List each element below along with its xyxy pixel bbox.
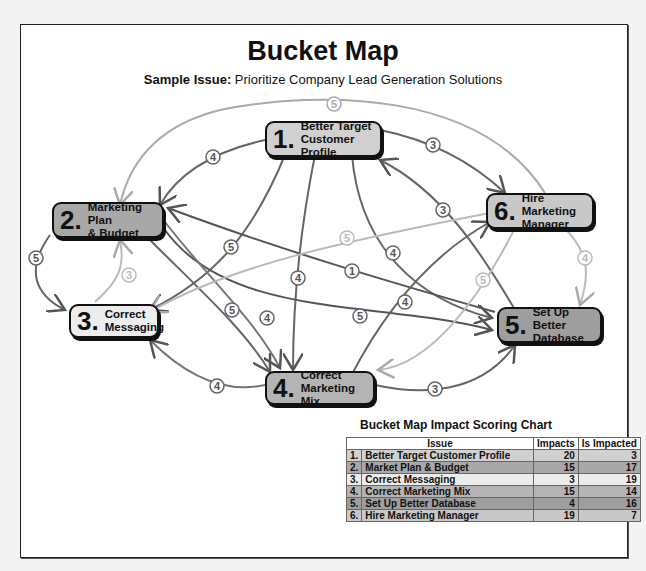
- bucket-node-2: 2. Marketing Plan& Budget: [52, 202, 164, 238]
- svg-text:4: 4: [390, 247, 397, 259]
- edge-5-4: [378, 218, 520, 370]
- table-row: 2.Market Plan & Budget1517: [347, 462, 641, 474]
- svg-text:5: 5: [229, 304, 235, 316]
- scoring-table: Issue Impacts Is Impacted 1.Better Targe…: [346, 437, 641, 522]
- edge-1-3: [150, 155, 285, 310]
- table-row: 6.Hire Marketing Manager197: [347, 510, 641, 522]
- bucket-node-6: 6. Hire MarketingManager: [486, 193, 594, 229]
- svg-text:5: 5: [357, 310, 363, 322]
- svg-text:4: 4: [210, 151, 217, 163]
- edge-1-4: [293, 155, 315, 370]
- svg-text:5: 5: [331, 98, 337, 110]
- svg-text:4: 4: [582, 252, 589, 264]
- bucket-node-4: 4. CorrectMarketing Mix: [265, 371, 375, 405]
- edge-3-2: [95, 240, 122, 302]
- svg-text:1: 1: [349, 265, 355, 277]
- svg-text:5: 5: [33, 252, 39, 264]
- svg-text:5: 5: [228, 241, 234, 253]
- edge-4-3: [150, 340, 265, 387]
- bucket-node-5: 5. Set Up BetterDatabase: [497, 307, 602, 343]
- svg-text:3: 3: [432, 383, 438, 395]
- table-row: 4.Correct Marketing Mix1514: [347, 486, 641, 498]
- edge-2-3: [36, 235, 65, 310]
- svg-text:4: 4: [214, 380, 221, 392]
- svg-text:4: 4: [295, 272, 302, 284]
- table-row: 3.Correct Messaging319: [347, 474, 641, 486]
- bucket-node-3: 3. CorrectMessaging: [69, 304, 159, 338]
- edge-5-2: [168, 208, 495, 312]
- svg-text:3: 3: [126, 269, 132, 281]
- svg-text:4: 4: [402, 296, 409, 308]
- table-row: 1.Better Target Customer Profile203: [347, 450, 641, 462]
- svg-text:3: 3: [440, 204, 446, 216]
- edge-4-5: [375, 345, 515, 390]
- table-header-row: Issue Impacts Is Impacted: [347, 438, 641, 450]
- svg-text:4: 4: [264, 312, 271, 324]
- edge-5-1: [380, 160, 515, 310]
- table-row: 5.Set Up Better Database416: [347, 498, 641, 510]
- svg-text:5: 5: [344, 232, 350, 244]
- bucket-node-1: 1. Better TargetCustomer Profile: [265, 121, 382, 157]
- svg-text:3: 3: [430, 139, 436, 151]
- svg-text:5: 5: [480, 274, 486, 286]
- edge-1-6: [380, 130, 505, 193]
- scoring-chart-title: Bucket Map Impact Scoring Chart: [360, 418, 552, 432]
- edge-2-4: [150, 240, 270, 372]
